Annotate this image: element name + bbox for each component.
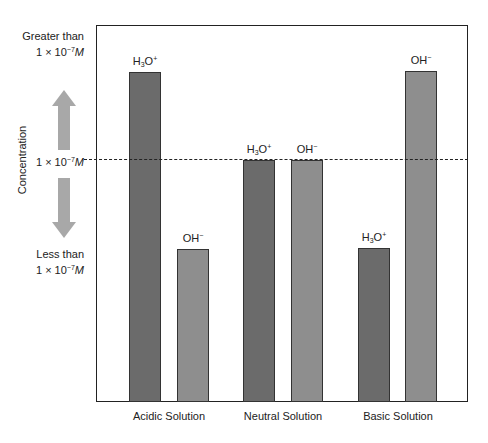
greater-than-label: Greater than 1 × 10−7M — [0, 29, 84, 59]
bar-acidic-h3o — [129, 72, 161, 402]
greater-than-value: 1 × 10−7M — [0, 43, 84, 59]
bar-acidic-oh — [177, 249, 209, 402]
less-than-value: 1 × 10−7M — [0, 261, 84, 277]
less-than-label: Less than 1 × 10−7M — [0, 247, 84, 277]
bar-neutral-oh — [291, 160, 323, 402]
arrow-up-icon — [52, 90, 76, 150]
less-than-text: Less than — [0, 247, 84, 261]
label-neutral-h3o: H3O+ — [239, 143, 279, 156]
label-basic-oh: OH− — [401, 54, 441, 66]
arrow-down-icon — [52, 178, 76, 238]
bar-basic-h3o — [358, 248, 390, 402]
label-basic-h3o: H3O+ — [354, 231, 394, 244]
label-acidic-oh: OH− — [173, 232, 213, 244]
greater-than-text: Greater than — [0, 29, 84, 43]
reference-label: 1 × 10−7M — [0, 153, 84, 169]
label-neutral-oh: OH− — [287, 143, 327, 155]
bar-neutral-h3o — [243, 160, 275, 402]
category-acidic: Acidic Solution — [109, 410, 229, 422]
bar-basic-oh — [405, 71, 437, 402]
category-neutral: Neutral Solution — [223, 410, 343, 422]
label-acidic-h3o: H3O+ — [125, 55, 165, 68]
category-basic: Basic Solution — [338, 410, 458, 422]
reference-line — [84, 159, 468, 160]
